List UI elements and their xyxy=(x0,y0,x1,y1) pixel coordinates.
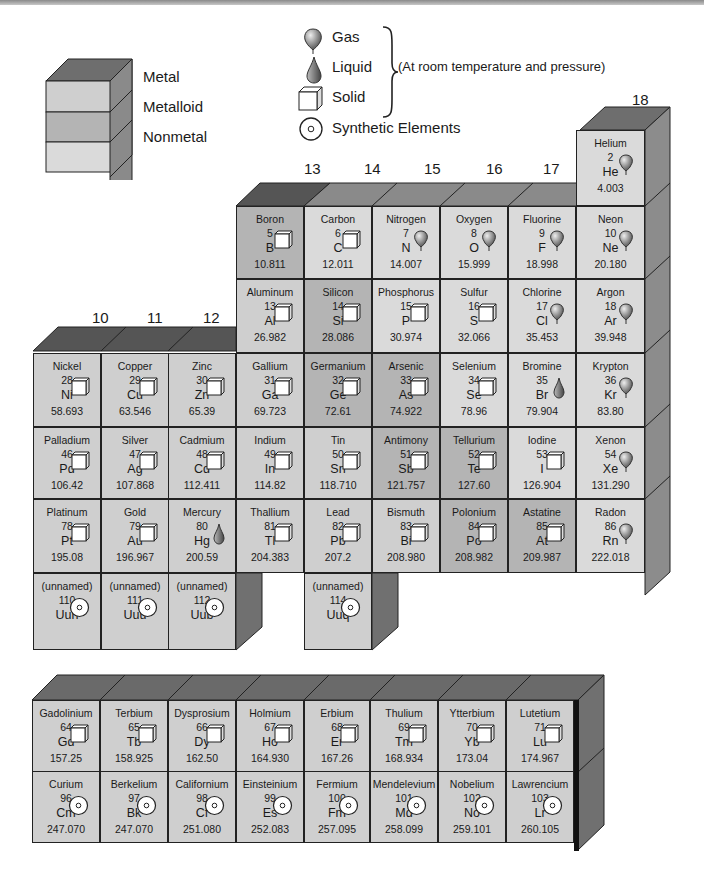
state-icon xyxy=(618,230,634,252)
element-cell-as: Arsenic33As74.922 xyxy=(372,353,440,427)
atomic-weight: 118.710 xyxy=(305,480,371,492)
cube-icon xyxy=(274,303,293,322)
element-symbol: Fm xyxy=(305,806,369,820)
cube-icon xyxy=(206,377,225,396)
state-icon xyxy=(476,724,495,743)
atomic-weight: 173.04 xyxy=(439,753,505,765)
element-symbol: Sb xyxy=(373,462,439,476)
element-cell-cf: Californium98Cf251.080 xyxy=(168,771,236,843)
element-symbol: Uuq xyxy=(305,608,371,622)
element-name: (unnamed) xyxy=(102,581,168,593)
element-symbol: S xyxy=(441,314,507,328)
atomic-weight: 112.411 xyxy=(169,480,235,492)
element-name: Helium xyxy=(577,138,644,150)
atomic-number: 111 xyxy=(102,595,168,607)
element-cell-fm: Fermium100Fm257.095 xyxy=(304,771,370,843)
element-name: (unnamed) xyxy=(169,581,235,593)
element-cell-md: Mendelevium101Md258.099 xyxy=(370,771,438,843)
atomic-weight: 174.967 xyxy=(507,753,573,765)
element-cell-ni: Nickel28Ni58.693 xyxy=(33,353,101,427)
element-symbol: Uun xyxy=(34,608,100,622)
element-cell-al: Aluminum13Al26.982 xyxy=(236,279,304,353)
element-symbol: Pd xyxy=(34,462,100,476)
element-cell-uun: (unnamed)110Uun xyxy=(33,573,101,650)
element-name: Aluminum xyxy=(237,287,303,299)
atomic-weight: 200.59 xyxy=(169,552,235,564)
element-cell-bi: Bismuth83Bi208.980 xyxy=(372,499,440,573)
atomic-number: 47 xyxy=(102,449,168,461)
cube-icon xyxy=(546,451,565,470)
state-icon xyxy=(136,795,157,816)
element-symbol: Ni xyxy=(34,388,100,402)
state-icon xyxy=(137,597,158,618)
element-symbol: Pb xyxy=(305,534,371,548)
element-cell-p: Phosphorus15P30.974 xyxy=(372,279,440,353)
cube-icon xyxy=(408,724,427,743)
state-icon xyxy=(406,795,427,816)
state-icon xyxy=(206,377,225,396)
element-symbol: P xyxy=(373,314,439,328)
cube-icon xyxy=(410,451,429,470)
atomic-weight: 72.61 xyxy=(305,406,371,418)
element-name: Berkelium xyxy=(101,779,167,791)
element-name: Astatine xyxy=(509,507,575,519)
element-name: Terbium xyxy=(101,708,167,720)
atomic-number: 5 xyxy=(237,228,303,240)
atomic-number: 112 xyxy=(169,595,235,607)
element-name: Selenium xyxy=(441,361,507,373)
element-name: Nitrogen xyxy=(373,214,439,226)
state-icon xyxy=(544,724,563,743)
cube-icon xyxy=(274,377,293,396)
element-cell-ar: Argon18Ar39.948 xyxy=(576,279,645,353)
atomic-weight: 251.080 xyxy=(169,824,235,836)
atomic-weight: 18.998 xyxy=(509,259,575,271)
element-symbol: Cl xyxy=(509,314,575,328)
atomic-weight: 158.925 xyxy=(101,753,167,765)
state-icon xyxy=(338,795,359,816)
state-icon xyxy=(553,377,565,399)
synthetic-circle-icon xyxy=(204,597,225,618)
cube-icon xyxy=(544,724,563,743)
element-cell-sn: Tin50Sn118.710 xyxy=(304,427,372,499)
element-cell-pd: Palladium46Pd106.42 xyxy=(33,427,101,499)
atomic-number: 67 xyxy=(237,722,303,734)
state-icon xyxy=(546,451,565,470)
atomic-weight: 164.930 xyxy=(237,753,303,765)
cube-icon xyxy=(139,377,158,396)
synthetic-circle-icon xyxy=(136,795,157,816)
atomic-number: 6 xyxy=(305,228,371,240)
atomic-weight: 107.868 xyxy=(102,480,168,492)
atomic-weight: 83.80 xyxy=(577,406,644,418)
element-symbol: Cf xyxy=(169,806,235,820)
element-cell-bk: Berkelium97Bk247.070 xyxy=(100,771,168,843)
element-name: Gallium xyxy=(237,361,303,373)
atomic-weight: 259.101 xyxy=(439,824,505,836)
atomic-weight: 208.982 xyxy=(441,552,507,564)
atomic-weight: 204.383 xyxy=(237,552,303,564)
element-cell-sb: Antimony51Sb121.757 xyxy=(372,427,440,499)
state-icon xyxy=(549,303,565,325)
state-icon xyxy=(342,303,361,322)
atomic-number: 82 xyxy=(305,521,371,533)
element-symbol: Yb xyxy=(439,735,505,749)
element-symbol: Te xyxy=(441,462,507,476)
state-icon xyxy=(474,795,495,816)
element-name: Lutetium xyxy=(507,708,573,720)
element-symbol: Lu xyxy=(507,735,573,749)
balloon-icon xyxy=(618,303,634,325)
atomic-number: 66 xyxy=(169,722,235,734)
element-cell-uuu: (unnamed)111Uuu xyxy=(101,573,169,650)
state-icon xyxy=(546,523,565,542)
element-cell-si: Silicon14Si28.086 xyxy=(304,279,372,353)
atomic-weight: 32.066 xyxy=(441,332,507,344)
balloon-icon xyxy=(618,154,634,176)
element-name: Krypton xyxy=(577,361,644,373)
atomic-weight: 63.546 xyxy=(102,406,168,418)
element-name: Silicon xyxy=(305,287,371,299)
element-name: Boron xyxy=(237,214,303,226)
atomic-weight: 78.96 xyxy=(441,406,507,418)
element-name: Argon xyxy=(577,287,644,299)
cube-icon xyxy=(206,451,225,470)
element-name: Dysprosium xyxy=(169,708,235,720)
state-icon xyxy=(274,377,293,396)
